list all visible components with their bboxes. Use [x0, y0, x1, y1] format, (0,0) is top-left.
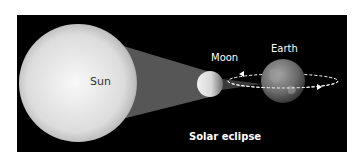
- sun-icon: [19, 24, 137, 142]
- diagram-caption: Solar eclipse: [189, 131, 261, 142]
- eclipse-illustration: [0, 0, 363, 166]
- sun-label: Sun: [90, 75, 111, 88]
- earth-icon: [261, 59, 305, 103]
- earth-label: Earth: [271, 43, 298, 54]
- moon-label: Moon: [211, 52, 238, 63]
- moon-icon: [197, 71, 223, 97]
- orbit-arrow-icon: [317, 84, 322, 90]
